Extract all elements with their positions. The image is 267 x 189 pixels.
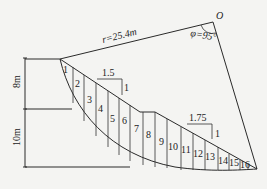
height-upper-label: 8m	[11, 75, 22, 88]
slice-number: 14	[218, 155, 228, 166]
height-dimension	[23, 58, 27, 167]
slice-number: 1	[63, 64, 68, 75]
angle-label: φ=95°	[190, 27, 218, 42]
slope1-horizontal: 1.5	[102, 67, 115, 78]
radius-label: r=25.4m	[101, 26, 138, 45]
slice-number: 9	[159, 136, 164, 147]
slice-number: 10	[168, 141, 178, 152]
height-lower-label: 10m	[11, 128, 22, 146]
diagram-svg: O r=25.4m φ=95° 8m 10m 1.5 1 1.75 1 1 2 …	[0, 0, 267, 189]
slice-number: 12	[193, 148, 203, 159]
slope1-vertical: 1	[124, 82, 129, 93]
slope2-horizontal: 1.75	[189, 112, 207, 123]
slice-number: 6	[122, 115, 127, 126]
slice-number: 2	[75, 78, 80, 89]
slice-number: 8	[146, 129, 151, 140]
slip-surface-arc	[60, 59, 257, 170]
slice-number: 11	[181, 144, 191, 155]
slice-number: 16	[240, 159, 250, 170]
slope-ratio-1	[97, 79, 122, 95]
slice-number: 15	[229, 157, 239, 168]
slope-surface	[60, 59, 257, 169]
slope-stability-diagram: O r=25.4m φ=95° 8m 10m 1.5 1 1.75 1 1 2 …	[0, 0, 267, 189]
slice-number: 7	[134, 123, 139, 134]
slice-number: 3	[87, 94, 92, 105]
slice-number: 5	[110, 113, 115, 124]
slope2-vertical: 1	[215, 128, 220, 139]
slice-number: 13	[205, 151, 215, 162]
center-label: O	[216, 10, 223, 21]
slice-number: 4	[98, 103, 103, 114]
